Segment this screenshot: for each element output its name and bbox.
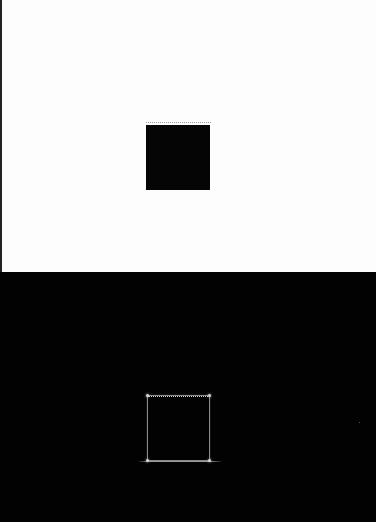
edge-top-dotted-line xyxy=(148,396,210,397)
square-top-edge-artifact xyxy=(146,122,211,123)
corner-point-top-right xyxy=(208,394,211,397)
corner-point-top-left xyxy=(146,394,149,397)
noise-speck xyxy=(359,422,360,423)
corner-point-bottom-left xyxy=(146,459,149,462)
solid-black-square xyxy=(146,125,210,190)
square-edge-outline xyxy=(147,395,210,461)
corner-point-bottom-right xyxy=(208,459,211,462)
